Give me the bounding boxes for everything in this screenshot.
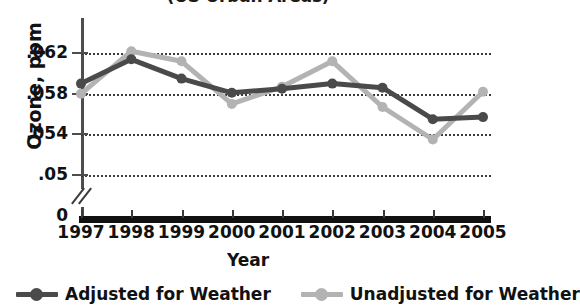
data-point	[76, 79, 86, 89]
x-tick-label: 2004	[405, 222, 461, 242]
x-tick-label: 2003	[355, 222, 411, 242]
x-tick-label: 2000	[204, 222, 260, 242]
x-tick-label: 2001	[254, 222, 310, 242]
data-point	[378, 102, 388, 112]
data-point	[478, 112, 488, 122]
data-point	[177, 56, 187, 66]
data-series-layer	[81, 18, 491, 218]
data-point	[428, 114, 438, 124]
chart-title: (US Urban Areas)	[0, 0, 496, 6]
legend-marker-adjusted-icon	[16, 287, 58, 301]
plot-area	[81, 18, 491, 218]
legend-marker-unadjusted-icon	[301, 287, 343, 301]
data-point	[378, 83, 388, 93]
data-point	[327, 79, 337, 89]
data-point	[76, 89, 86, 99]
y-tick-label: .05	[8, 164, 68, 184]
data-point	[478, 87, 488, 97]
x-tick-label: 2005	[455, 222, 511, 242]
chart-legend: Adjusted for Weather Unadjusted for Weat…	[0, 281, 496, 307]
x-axis-title: Year	[0, 250, 496, 270]
legend-item-unadjusted[interactable]: Unadjusted for Weather	[301, 284, 580, 304]
legend-label-unadjusted: Unadjusted for Weather	[350, 284, 580, 304]
x-tick-label: 1998	[103, 222, 159, 242]
x-tick-label: 1999	[154, 222, 210, 242]
data-point	[277, 84, 287, 94]
data-point	[428, 135, 438, 145]
legend-item-adjusted[interactable]: Adjusted for Weather	[16, 284, 271, 304]
data-point	[227, 88, 237, 98]
data-point	[227, 99, 237, 109]
data-point	[327, 56, 337, 66]
data-point	[126, 54, 136, 64]
y-axis-title: Ozone, ppm	[23, 6, 45, 166]
legend-label-adjusted: Adjusted for Weather	[65, 284, 271, 304]
data-point	[177, 74, 187, 84]
x-tick-label: 1997	[53, 222, 109, 242]
x-tick-label: 2002	[304, 222, 360, 242]
